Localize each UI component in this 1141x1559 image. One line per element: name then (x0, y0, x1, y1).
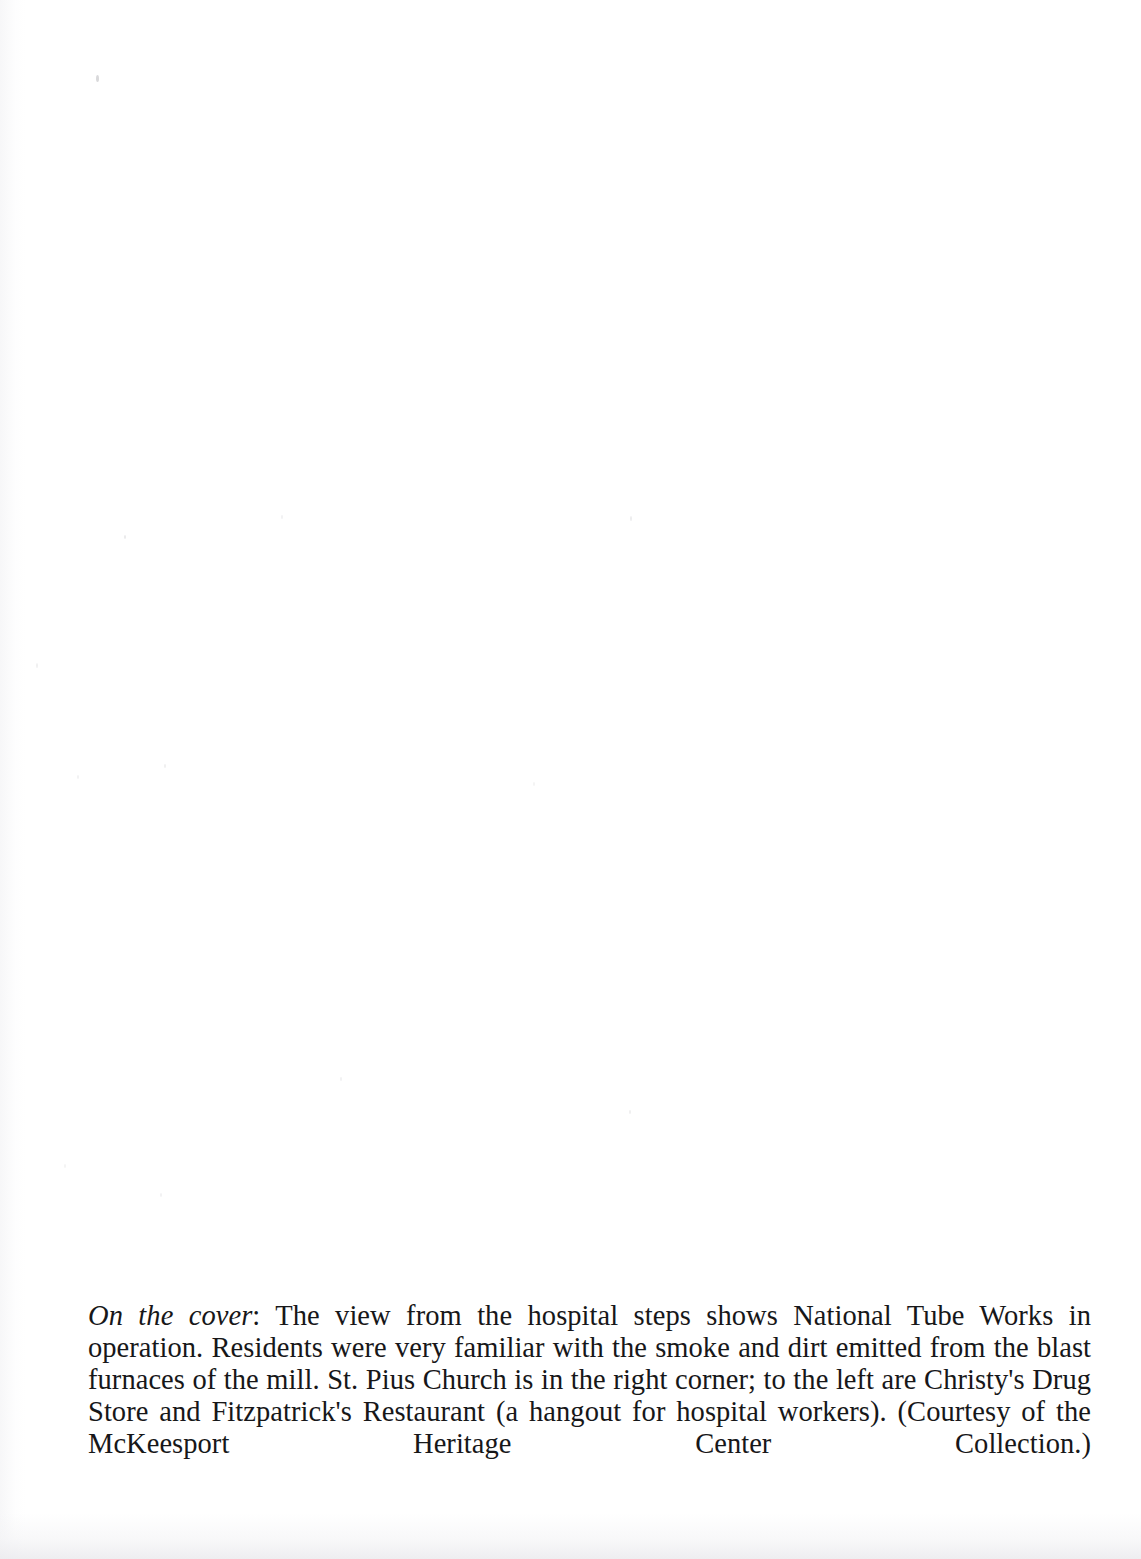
cover-caption-block: On the cover: The view from the hospital… (88, 1300, 1091, 1492)
scan-speck (77, 775, 79, 779)
scan-speck (533, 782, 535, 786)
scan-speck (340, 1077, 342, 1081)
scan-edge-shadow-left (0, 0, 26, 1559)
scan-speck (36, 663, 38, 668)
cover-caption-lead-label: On the cover (88, 1300, 252, 1331)
scan-speck (630, 516, 632, 521)
cover-caption-separator: : (252, 1300, 275, 1331)
scan-speck (629, 1110, 631, 1114)
cover-caption-paragraph: On the cover: The view from the hospital… (88, 1300, 1091, 1492)
scan-speck (160, 1193, 162, 1197)
document-page: On the cover: The view from the hospital… (0, 0, 1141, 1559)
scan-speck (281, 515, 283, 519)
scan-speck (164, 764, 166, 768)
scan-edge-shadow-bottom (0, 1513, 1141, 1559)
scan-speck (124, 535, 126, 539)
scan-speck (96, 75, 99, 82)
scan-speck (64, 1164, 66, 1168)
